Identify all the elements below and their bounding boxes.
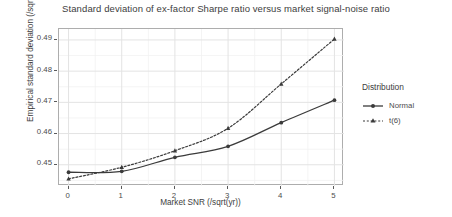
x-tick-mark [280, 186, 281, 189]
plot-panel [58, 28, 343, 185]
x-tick-mark [121, 186, 122, 189]
legend-item-t-6[interactable]: t(6) [362, 113, 448, 128]
chart-container: Standard deviation of ex-factor Sharpe r… [0, 0, 452, 217]
y-tick-mark [54, 164, 57, 165]
y-tick-label: 0.45 [16, 158, 52, 167]
y-tick-mark [54, 133, 57, 134]
y-tick-label: 0.48 [16, 65, 52, 74]
legend-key-circle-line-icon [362, 99, 384, 113]
x-tick-mark [227, 186, 228, 189]
legend-label: Normal [389, 101, 414, 110]
legend-title: Distribution [362, 82, 448, 92]
y-tick-label: 0.47 [16, 96, 52, 105]
legend-key-triangle-line-icon [362, 114, 384, 128]
y-tick-mark [54, 39, 57, 40]
y-tick-label: 0.49 [16, 33, 52, 42]
legend-label: t(6) [389, 116, 401, 125]
x-tick-mark [333, 186, 334, 189]
plot-area [59, 29, 344, 186]
legend-item-normal[interactable]: Normal [362, 98, 448, 113]
y-tick-mark [54, 101, 57, 102]
legend: Distribution Normalt(6) [362, 82, 448, 128]
y-tick-label: 0.46 [16, 127, 52, 136]
chart-title: Standard deviation of ex-factor Sharpe r… [0, 3, 452, 14]
x-tick-mark [174, 186, 175, 189]
y-tick-mark [54, 70, 57, 71]
x-tick-mark [68, 186, 69, 189]
x-axis-title: Market SNR (/sqrt(yr)) [58, 198, 343, 207]
legend-entries: Normalt(6) [362, 98, 448, 128]
